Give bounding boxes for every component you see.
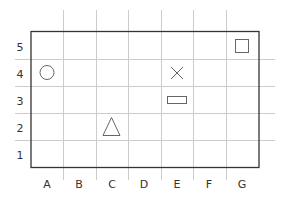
- vertical-gridlines: [64, 10, 227, 180]
- column-label: A: [43, 178, 51, 191]
- row-label: 1: [17, 149, 24, 162]
- column-label: F: [206, 178, 212, 191]
- row-label: 2: [17, 122, 24, 135]
- rectangle-shape: [168, 97, 187, 104]
- row-label: 3: [17, 95, 24, 108]
- circle-shape: [40, 66, 54, 80]
- column-label: G: [238, 178, 247, 191]
- row-label: 5: [17, 41, 24, 54]
- column-label: C: [108, 178, 116, 191]
- column-label: B: [75, 178, 83, 191]
- column-labels: A B C D E F G: [43, 178, 246, 191]
- row-label: 4: [17, 68, 24, 81]
- grid-border: [31, 32, 259, 168]
- triangle-shape: [103, 118, 120, 136]
- cross-shape: [171, 67, 183, 79]
- column-label: E: [174, 178, 181, 191]
- grid-diagram: 5 4 3 2 1 A B C D E F G: [0, 0, 285, 198]
- square-shape: [236, 40, 249, 53]
- column-label: D: [140, 178, 148, 191]
